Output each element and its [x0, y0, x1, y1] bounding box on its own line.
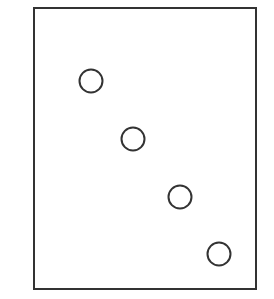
data-point-circle: [80, 70, 103, 93]
scatter-plot-svg: [0, 0, 274, 299]
data-point-circle: [169, 186, 192, 209]
data-point-circle: [208, 243, 231, 266]
figure-root: [0, 0, 274, 299]
data-point-circle: [122, 128, 145, 151]
